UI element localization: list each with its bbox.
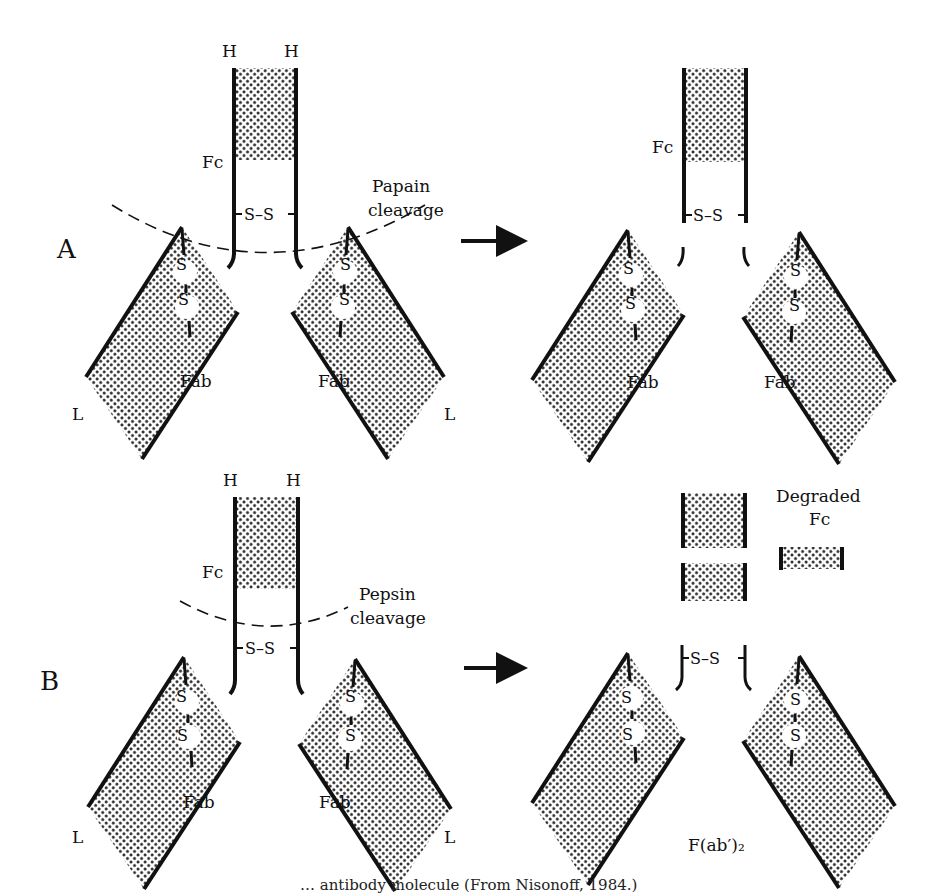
- panel-a: A H H Fc S–S S S S S Fab Fab L L Papai: [56, 41, 895, 464]
- fc-fragment-shaded: [685, 68, 745, 162]
- degraded-fc-piece: [683, 563, 745, 601]
- intrachain-s-label: S: [176, 255, 187, 274]
- enzyme-label-cleavage: cleavage: [368, 200, 444, 220]
- light-chain-label-right: L: [444, 404, 455, 424]
- fab-fragment-label-left: Fab: [627, 372, 659, 392]
- fab2-label: F(ab′)₂: [688, 835, 745, 855]
- intrachain-s-label: S: [790, 726, 801, 745]
- intrachain-s-label: S: [340, 255, 351, 274]
- intrachain-s-label: S: [345, 687, 356, 706]
- fab-label-right: Fab: [318, 371, 350, 391]
- fab-label-left: Fab: [183, 792, 215, 812]
- heavy-chain-label-right: H: [286, 470, 301, 490]
- enzyme-label: Papain: [372, 176, 430, 196]
- intrachain-s-label: S: [345, 726, 356, 745]
- intrachain-s-label: S: [178, 290, 189, 309]
- antibody-cleavage-diagram: A H H Fc S–S S S S S Fab Fab L L Papai: [0, 0, 934, 894]
- panel-b: B H H Fc S–S S S S S Fab Fab L L Pepsin: [40, 470, 895, 891]
- enzyme-label-cleavage: cleavage: [350, 608, 426, 628]
- intrachain-s-label: S: [177, 726, 188, 745]
- degraded-fc-piece: [683, 493, 745, 548]
- panel-a-label: A: [56, 234, 77, 264]
- fc-label: Fc: [202, 152, 223, 172]
- heavy-chain-label-left: H: [223, 470, 238, 490]
- fab2-arm-left: [532, 653, 684, 885]
- fab-label-left: Fab: [180, 371, 212, 391]
- panel-b-products: Degraded Fc S–S S S S S F(ab′)₂: [532, 486, 895, 888]
- fab-label-right: Fab: [319, 792, 351, 812]
- disulfide-bond-label: S–S: [244, 205, 274, 224]
- intrachain-s-label: S: [789, 296, 800, 315]
- figure-caption: … antibody molecule (From Nisonoff, 1984…: [300, 876, 820, 894]
- enzyme-label: Pepsin: [359, 584, 416, 604]
- heavy-chain-label-right: H: [284, 41, 299, 61]
- light-chain-label-right: L: [444, 827, 455, 847]
- panel-a-products: Fc S–S S S S S Fab Fab: [532, 68, 895, 464]
- intrachain-s-label: S: [176, 687, 187, 706]
- fc-shaded-region: [235, 68, 295, 160]
- fc-fragment-label: Fc: [652, 137, 673, 157]
- intrachain-s-label: S: [622, 725, 633, 744]
- intrachain-s-label: S: [790, 690, 801, 709]
- pepsin-cleavage-line: [180, 601, 348, 626]
- panel-b-intact-antibody: H H Fc S–S S S S S Fab Fab L L Pepsin cl…: [72, 470, 455, 891]
- fab-fragment-label-right: Fab: [764, 372, 796, 392]
- intrachain-s-label: S: [621, 688, 632, 707]
- fab-fragment-left: [532, 230, 684, 462]
- fab-arm-right: [299, 659, 451, 891]
- intrachain-s-label: S: [625, 294, 636, 313]
- degraded-fc-piece: [781, 547, 841, 569]
- fab-arm-left: [86, 227, 238, 459]
- fc-fragment-disulfide: S–S: [693, 206, 723, 225]
- intrachain-s-label: S: [623, 259, 634, 278]
- fab2-disulfide-label: S–S: [690, 649, 720, 668]
- degraded-fc-label: Degraded: [776, 486, 861, 506]
- intrachain-s-label: S: [339, 290, 350, 309]
- fab-fragment-right: [743, 232, 895, 464]
- fc-shaded-region: [236, 497, 296, 589]
- light-chain-label-left: L: [72, 827, 83, 847]
- fab2-arm-right: [743, 656, 895, 888]
- degraded-fc-label-fc: Fc: [809, 509, 830, 529]
- fab-arm-left: [88, 657, 240, 889]
- fc-label: Fc: [202, 562, 223, 582]
- panel-a-intact-antibody: H H Fc S–S S S S S Fab Fab L L Papain cl…: [72, 41, 455, 459]
- light-chain-label-left: L: [72, 404, 83, 424]
- intrachain-s-label: S: [790, 261, 801, 280]
- fab-arm-right: [292, 227, 444, 459]
- panel-b-label: B: [40, 666, 59, 696]
- heavy-chain-label-left: H: [222, 41, 237, 61]
- disulfide-bond-label: S–S: [245, 639, 275, 658]
